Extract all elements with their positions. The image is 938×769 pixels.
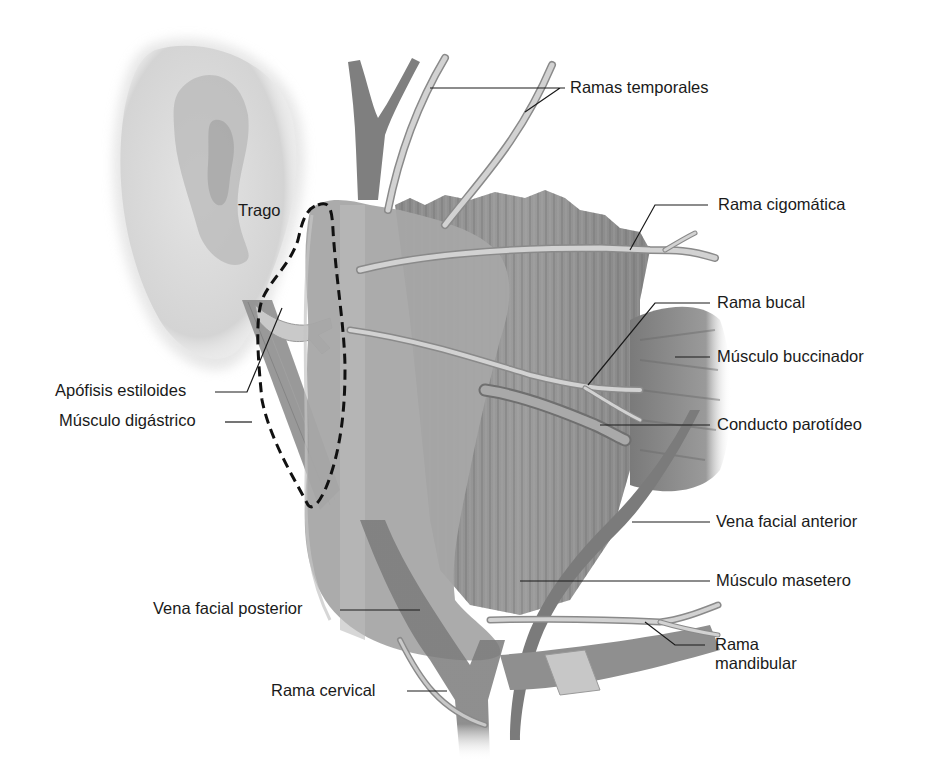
label-conducto-parotideo: Conducto parotídeo bbox=[717, 415, 862, 434]
label-rama-bucal: Rama bucal bbox=[717, 293, 805, 312]
label-musculo-digastrico: Músculo digástrico bbox=[59, 411, 196, 430]
label-apofisis-estiloides: Apófisis estiloides bbox=[55, 381, 186, 400]
label-rama-cigomatica: Rama cigomática bbox=[718, 195, 845, 214]
buccinator-muscle bbox=[630, 307, 731, 491]
label-ramas-temporales: Ramas temporales bbox=[570, 78, 708, 97]
label-musculo-masetero: Músculo masetero bbox=[716, 571, 851, 590]
label-vena-facial-posterior: Vena facial posterior bbox=[153, 599, 303, 618]
label-vena-facial-anterior: Vena facial anterior bbox=[716, 512, 857, 531]
label-musculo-buccinador: Músculo buccinador bbox=[717, 347, 864, 366]
label-rama-mandibular: Rama mandibular bbox=[715, 635, 797, 673]
label-rama-cervical: Rama cervical bbox=[271, 681, 376, 700]
label-trago: Trago bbox=[238, 201, 281, 220]
